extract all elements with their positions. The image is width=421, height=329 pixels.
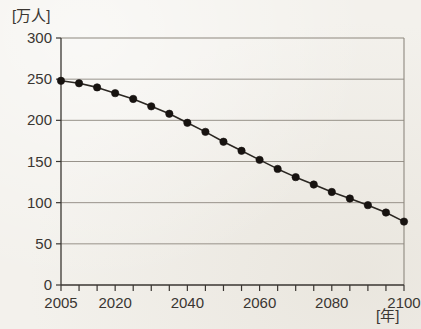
data-point [130,95,137,102]
data-point [310,181,317,188]
population-projection-line-chart: 050100150200250300 200520202040206020802… [0,0,421,329]
x-tick-label: 2020 [98,294,131,311]
y-axis-ticks [56,38,61,285]
data-point [292,173,299,180]
data-point [202,128,209,135]
data-point [346,195,353,202]
x-tick-label: 2040 [171,294,204,311]
x-axis-ticks [61,285,404,291]
y-tick-label: 100 [27,194,52,211]
y-tick-label: 0 [44,276,52,293]
x-tick-label: 2005 [44,294,77,311]
data-point [184,119,191,126]
data-point [220,138,227,145]
chart-page: [万人] [年] 050100150200250300 200520202040… [0,0,421,329]
y-axis-tick-labels: 050100150200250300 [27,29,52,293]
data-point [274,165,281,172]
y-tick-label: 250 [27,70,52,87]
x-tick-label: 2080 [315,294,348,311]
plot-area: 050100150200250300 200520202040206020802… [0,0,421,329]
data-point [382,209,389,216]
data-point [400,218,407,225]
data-point [57,77,64,84]
y-tick-label: 150 [27,153,52,170]
x-axis-tick-labels: 200520202040206020802100 [44,294,420,311]
data-point [238,147,245,154]
y-tick-label: 300 [27,29,52,46]
data-point [148,103,155,110]
y-tick-label: 50 [35,235,52,252]
data-point [256,156,263,163]
x-tick-label: 2100 [387,294,420,311]
gridlines [61,38,404,244]
data-point [75,80,82,87]
x-tick-label: 2060 [243,294,276,311]
data-point [93,84,100,91]
data-point [364,201,371,208]
data-point [111,89,118,96]
data-point [328,188,335,195]
data-point [166,110,173,117]
y-tick-label: 200 [27,111,52,128]
